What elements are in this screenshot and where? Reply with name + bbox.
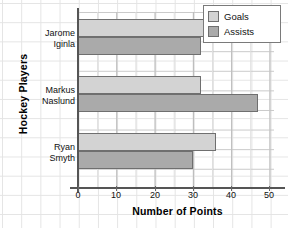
legend-label-goals: Goals xyxy=(224,11,249,22)
legend-label-assists: Assists xyxy=(224,26,254,37)
category-label-line-1: Ryan xyxy=(0,142,75,153)
legend-swatch-assists-icon xyxy=(208,26,219,37)
x-axis-title: Number of Points xyxy=(70,205,285,217)
y-axis-line xyxy=(77,8,79,192)
legend-swatch-goals-icon xyxy=(208,11,219,22)
y-axis-title: Hockey Players xyxy=(17,24,29,164)
x-tick-label-20: 20 xyxy=(144,190,166,200)
x-axis-line xyxy=(70,187,285,189)
chart-legend: Goals Assists xyxy=(203,5,281,43)
legend-item-assists: Assists xyxy=(208,24,276,39)
bar-markus-naslund-assists xyxy=(78,94,258,112)
bar-chart: 0 10 20 30 40 50 Jarome Iginla Markus Na… xyxy=(0,0,288,228)
bar-jarome-iginla-assists xyxy=(78,37,201,55)
category-label-markus-naslund: Markus Naslund xyxy=(0,85,75,106)
x-tick-label-40: 40 xyxy=(220,190,242,200)
bar-ryan-smyth-assists xyxy=(78,151,193,169)
bar-jarome-iginla-goals xyxy=(78,19,212,37)
category-label-line-1: Markus xyxy=(0,85,75,96)
x-tick-label-50: 50 xyxy=(258,190,280,200)
category-label-jarome-iginla: Jarome Iginla xyxy=(0,28,75,49)
category-label-line-2: Smyth xyxy=(0,153,75,164)
x-tick-label-30: 30 xyxy=(182,190,204,200)
x-tick-label-0: 0 xyxy=(67,190,89,200)
bar-ryan-smyth-goals xyxy=(78,133,216,151)
category-label-line-2: Naslund xyxy=(0,96,75,107)
category-label-line-1: Jarome xyxy=(0,28,75,39)
bar-markus-naslund-goals xyxy=(78,76,201,94)
category-label-ryan-smyth: Ryan Smyth xyxy=(0,142,75,163)
category-label-line-2: Iginla xyxy=(0,39,75,50)
legend-item-goals: Goals xyxy=(208,9,276,24)
x-tick-label-10: 10 xyxy=(105,190,127,200)
